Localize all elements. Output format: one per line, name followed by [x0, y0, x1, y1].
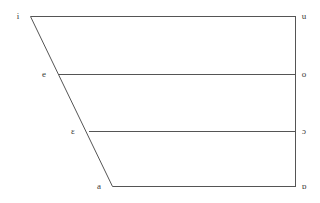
- vowel-symbol-front-close-mid: e: [42, 70, 46, 79]
- vowel-symbol-back-open-mid: ɔ: [302, 127, 306, 136]
- vowel-trapezium-outline: [31, 17, 296, 187]
- vowel-symbol-front-open: a: [97, 182, 101, 191]
- vowel-trapezium-svg: [0, 0, 320, 203]
- height-lines-group: [31, 17, 296, 187]
- vowel-chart-figure: iueoɛɔaɒ: [0, 0, 320, 203]
- vowel-symbol-front-open-mid: ɛ: [71, 127, 75, 136]
- vowel-symbol-back-open: ɒ: [302, 182, 307, 191]
- vowel-symbol-front-close: i: [17, 12, 20, 21]
- vowel-symbol-back-close-mid: o: [302, 70, 307, 79]
- vowel-symbol-back-close: u: [302, 12, 307, 21]
